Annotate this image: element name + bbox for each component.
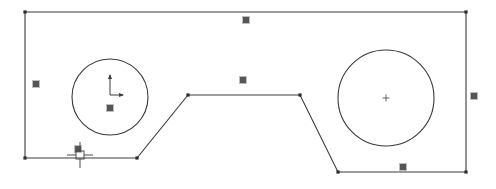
vertex-marker <box>23 156 26 159</box>
center-marks-layer <box>108 74 390 102</box>
outer-profile[interactable] <box>25 12 466 172</box>
axis-icon-x-arrowhead <box>119 93 124 97</box>
crosshair-pickbox-cursor <box>67 142 93 168</box>
grip-left-hole-center-box[interactable] <box>107 105 114 112</box>
axis-icon-y-arrowhead <box>108 74 112 79</box>
grip-right-edge-midpoint[interactable] <box>471 93 478 100</box>
cad-vector-canvas[interactable] <box>0 0 496 189</box>
vertex-marker <box>135 156 138 159</box>
grip-left-hole-center[interactable] <box>107 105 114 112</box>
vertex-marker <box>23 10 26 13</box>
vertex-marker <box>464 170 467 173</box>
grips-layer[interactable] <box>33 17 478 171</box>
grip-notch-top-edge-midpoint[interactable] <box>240 77 247 84</box>
outline-layer <box>25 12 466 172</box>
cursor-layer <box>67 142 93 168</box>
grip-bottom-right-edge-midpoint[interactable] <box>400 164 407 171</box>
grip-top-edge-midpoint[interactable] <box>243 17 250 24</box>
vertex-marker <box>464 10 467 13</box>
circles-layer <box>72 50 434 146</box>
grip-left-edge-midpoint[interactable] <box>33 81 40 88</box>
vertex-markers-layer <box>23 10 467 173</box>
grip-right-edge-midpoint-box[interactable] <box>471 93 478 100</box>
vertex-marker <box>186 93 189 96</box>
grip-notch-top-edge-midpoint-box[interactable] <box>240 77 247 84</box>
vertex-marker <box>298 93 301 96</box>
vertex-marker <box>336 170 339 173</box>
grip-left-edge-midpoint-box[interactable] <box>33 81 40 88</box>
left-hole[interactable] <box>72 59 148 135</box>
cad-drawing-area[interactable]: CAD Sketch View <box>0 0 496 189</box>
grip-bottom-right-edge-midpoint-box[interactable] <box>400 164 407 171</box>
grip-top-edge-midpoint-box[interactable] <box>243 17 250 24</box>
